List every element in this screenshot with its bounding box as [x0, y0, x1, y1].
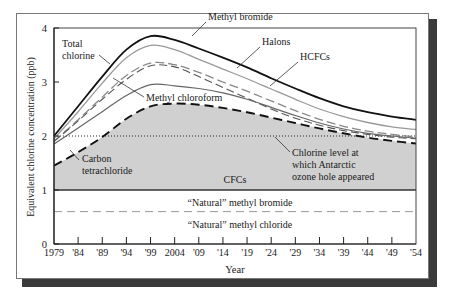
annotation-label: Carbon: [82, 153, 111, 164]
y-tick-label: 2: [42, 131, 47, 142]
x-tick-label: '24: [265, 247, 277, 258]
x-tick-label: '94: [120, 247, 132, 258]
y-tick-label: 1: [42, 185, 47, 196]
annotation-label: Methyl chloroform: [146, 92, 223, 103]
annotation-label: which Antarctic: [292, 159, 356, 170]
x-tick-label: '14: [217, 247, 229, 258]
annotation-label: Chlorine level at: [292, 147, 359, 158]
annotation-label: Methyl bromide: [208, 11, 273, 22]
annotation-label: chlorine: [62, 50, 95, 61]
x-tick-label: '84: [72, 247, 84, 258]
annotation-label: “Natural” methyl bromide: [188, 197, 294, 208]
x-axis-label: Year: [225, 264, 245, 275]
annotation-label: CFCs: [224, 174, 247, 185]
x-tick-label: '39: [338, 247, 350, 258]
annotation-label: Halons: [262, 36, 290, 47]
chlorine-chart: 1979'84'89'94'992004'09'14'19'24'29'34'3…: [0, 0, 449, 303]
annotation-label: ozone hole appeared: [292, 171, 374, 182]
annotation-label: Total: [62, 38, 83, 49]
annotation-label: HCFCs: [300, 51, 330, 62]
x-tick-label: '49: [386, 247, 398, 258]
annotation-label: tetrachloride: [82, 165, 133, 176]
annotation-leader-line: [99, 55, 110, 64]
x-tick-label: '54: [410, 247, 422, 258]
y-axis-label: Equivalent chlorine concentration (ppb): [25, 57, 37, 217]
annotation-leader-line: [192, 22, 206, 36]
x-tick-label: 2004: [165, 247, 185, 258]
y-tick-label: 3: [42, 77, 47, 88]
annotation-leader-line: [237, 47, 260, 68]
y-tick-label: 4: [42, 23, 48, 34]
annotation-label: “Natural” methyl chloride: [188, 219, 293, 230]
x-tick-label: '09: [193, 247, 205, 258]
y-tick-label: 0: [42, 239, 47, 250]
x-tick-label: '29: [289, 247, 301, 258]
x-tick-label: '34: [314, 247, 326, 258]
x-tick-label: '99: [145, 247, 157, 258]
annotation-leader-line: [270, 62, 298, 86]
x-tick-label: 1979: [44, 247, 64, 258]
x-tick-label: '44: [362, 247, 374, 258]
x-tick-label: '89: [96, 247, 108, 258]
x-tick-label: '19: [241, 247, 253, 258]
